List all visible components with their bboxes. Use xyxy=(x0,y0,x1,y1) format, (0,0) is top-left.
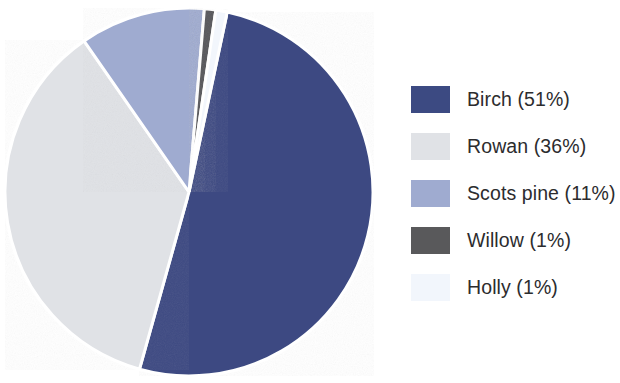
legend-item-rowan[interactable]: Rowan (36%) xyxy=(411,123,616,170)
legend-swatch-birch xyxy=(411,86,450,113)
legend-label: Willow (1%) xyxy=(467,230,571,251)
legend-item-scots-pine[interactable]: Scots pine (11%) xyxy=(411,170,616,217)
legend-swatch-holly xyxy=(411,274,450,301)
pie-chart-plot-area: Birch (51%)Rowan (36%)Scots pine (11%)Wi… xyxy=(0,0,392,383)
legend-label: Rowan (36%) xyxy=(467,136,586,157)
legend-item-holly[interactable]: Holly (1%) xyxy=(411,264,616,311)
legend-swatch-scots-pine xyxy=(411,180,450,207)
pie-slice-group: Birch (51%)Rowan (36%)Scots pine (11%)Wi… xyxy=(5,8,373,376)
chart-legend: Birch (51%)Rowan (36%)Scots pine (11%)Wi… xyxy=(411,76,616,311)
pie-chart-svg: Birch (51%)Rowan (36%)Scots pine (11%)Wi… xyxy=(0,0,392,383)
legend-swatch-rowan xyxy=(411,133,450,160)
legend-label: Holly (1%) xyxy=(467,277,558,298)
legend-swatch-willow xyxy=(411,227,450,254)
legend-label: Birch (51%) xyxy=(467,89,570,110)
legend-item-birch[interactable]: Birch (51%) xyxy=(411,76,616,123)
legend-item-willow[interactable]: Willow (1%) xyxy=(411,217,616,264)
pie-chart-figure: Birch (51%)Rowan (36%)Scots pine (11%)Wi… xyxy=(0,0,620,383)
legend-label: Scots pine (11%) xyxy=(467,183,616,204)
